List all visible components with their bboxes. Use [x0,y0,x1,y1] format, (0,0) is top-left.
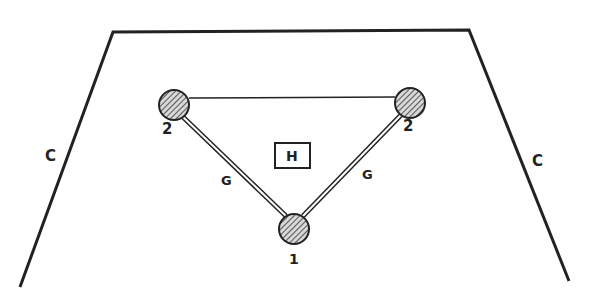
edge-left-double [183,117,286,216]
node-bottom [279,214,309,244]
node-top-left [159,90,189,120]
node-label-bottom: 1 [289,251,299,267]
edge-right-double [303,115,401,216]
node-top-right [395,88,425,118]
edge-label-right: G [362,167,373,182]
node-label-top-right: 2 [403,117,413,135]
center-box-label: H [286,148,298,164]
diagram-canvas: C C G G 2 2 1 H [0,0,592,306]
edge-label-left: G [221,173,232,188]
edge-top [189,97,395,98]
node-label-top-left: 2 [162,120,172,138]
outline-label-right: C [532,152,543,170]
outline-label-left: C [45,147,56,165]
